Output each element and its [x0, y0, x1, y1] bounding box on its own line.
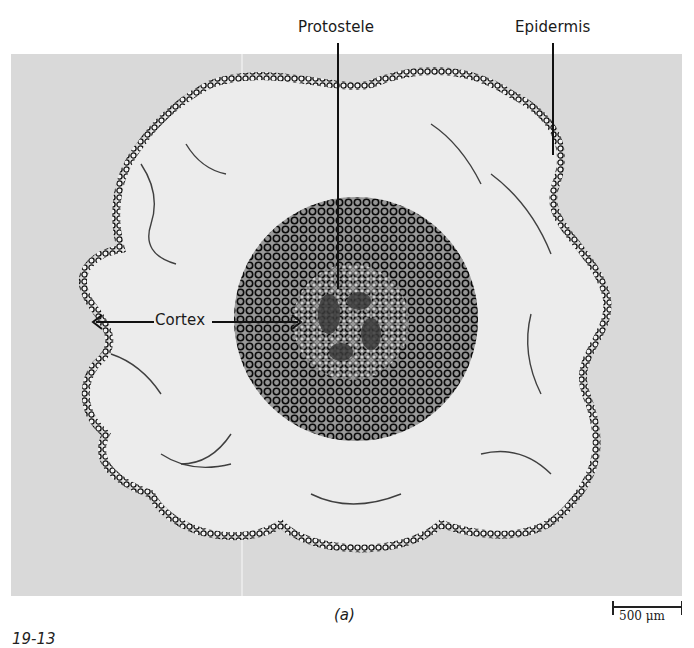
- cortex-right-arrow-line: [212, 321, 298, 323]
- protostele-leader-line: [337, 43, 339, 289]
- protostele-region: [293, 264, 409, 380]
- figure-number: 19-13: [12, 630, 56, 648]
- scale-bar-left-tick: [612, 601, 614, 615]
- cortex-label: Cortex: [155, 311, 205, 329]
- epidermis-label: Epidermis: [515, 18, 590, 36]
- cortex-left-arrowhead-icon: [90, 313, 104, 331]
- epidermis-leader-line: [552, 43, 554, 155]
- cortex-right-arrowhead-icon: [290, 313, 304, 331]
- root-cross-section-drawing: [11, 54, 682, 596]
- scale-bar-line: [612, 606, 682, 608]
- root-cross-section-micrograph: [11, 54, 682, 596]
- scale-bar-right-tick: [681, 601, 683, 615]
- scale-bar: 500 μm: [612, 601, 682, 623]
- cortex-left-arrow-line: [96, 321, 154, 323]
- protostele-label: Protostele: [298, 18, 374, 36]
- scale-bar-text: 500 μm: [619, 609, 665, 623]
- panel-label: (a): [334, 606, 355, 624]
